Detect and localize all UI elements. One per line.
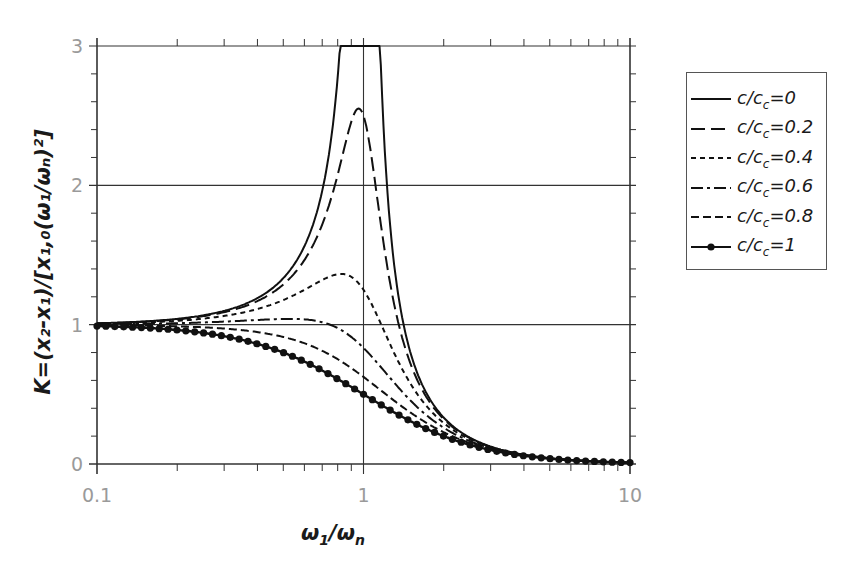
marker-dot [333,375,340,382]
tick-labels: 01230.1110 [71,35,642,506]
marker-dot [236,336,243,343]
legend-swatch [691,204,731,230]
marker-dot [404,416,411,423]
marker-dot [360,391,367,398]
marker-dot [156,325,163,332]
marker-dot [200,329,207,336]
marker-dot [307,361,314,368]
marker-dot [440,432,447,439]
legend-label: c/cc=0.6 [737,175,813,200]
marker-dot [573,457,580,464]
marker-dot [324,370,331,377]
marker-dot [475,444,482,451]
legend-swatch [691,116,731,142]
marker-dot [555,456,562,463]
marker-dot [289,353,296,360]
marker-dot [618,459,625,466]
legend-swatch [691,86,731,112]
marker-dot [182,327,189,334]
marker-dot [538,454,545,461]
legend-label: c/cc=0.2 [737,116,813,141]
marker-dot [138,324,145,331]
marker-dot [493,448,500,455]
y-tick-label: 2 [71,174,83,196]
marker-dot [173,326,180,333]
marker-dot [626,459,633,466]
legend-swatch [691,234,731,260]
legend-item: c/cc=0.2 [687,116,828,142]
marker-dot [369,396,376,403]
marker-dot [129,324,136,331]
marker-dot [600,458,607,465]
legend-label: c/cc=0 [737,87,796,112]
marker-dot [413,421,420,428]
marker-dot [93,322,100,329]
x-axis-title: ω1/ωn [301,521,365,548]
marker-dot [502,449,509,456]
marker-dot [431,429,438,436]
marker-dot [511,451,518,458]
x-tick-label: 0.1 [82,484,112,506]
marker-dot [218,332,225,339]
legend-item: c/cc=1 [687,234,828,260]
marker-dot [191,328,198,335]
marker-dot [484,446,491,453]
legend-label: c/cc=0.8 [737,205,813,230]
marker-dot [582,457,589,464]
marker-dot [378,401,385,408]
marker-dot [564,456,571,463]
x-tick-label: 1 [357,484,369,506]
legend-item: c/cc=0 [687,86,828,112]
marker-dot [271,346,278,353]
marker-dot [520,452,527,459]
marker-dot [164,326,171,333]
legend: c/cc=0c/cc=0.2c/cc=0.4c/cc=0.6c/cc=0.8c/… [686,72,827,270]
legend-label: c/cc=0.4 [737,146,813,171]
marker-dot [609,459,616,466]
legend-item: c/cc=0.8 [687,204,828,230]
marker-dot [280,349,287,356]
marker-dot [147,324,154,331]
legend-swatch [691,175,731,201]
y-tick-label: 1 [71,314,83,336]
legend-item: c/cc=0.4 [687,145,828,171]
marker-dot [209,331,216,338]
marker-dot [244,338,251,345]
marker-dot [351,385,358,392]
legend-item: c/cc=0.6 [687,175,828,201]
gridlines [89,38,636,474]
y-axis-title: K=(x₂-x₁)/[x₁,₀(ω₁/ωₙ)²] [31,129,55,395]
marker-dot [422,425,429,432]
marker-dot [546,455,553,462]
marker-dot [120,323,127,330]
marker-dot [529,453,536,460]
marker-dot [395,411,402,418]
marker-dot [298,357,305,364]
marker-dot [227,334,234,341]
marker-dot [387,406,394,413]
marker-dot [262,343,269,350]
legend-label: c/cc=1 [737,234,796,259]
marker-dot [591,458,598,465]
marker-dot [315,365,322,372]
marker-dot [102,323,109,330]
marker-dot [111,323,118,330]
x-tick-label: 10 [618,484,642,506]
marker-dot [467,441,474,448]
legend-swatch [691,145,731,171]
y-tick-label: 0 [71,453,83,475]
marker-dot [449,436,456,443]
marker-dot [253,340,260,347]
marker-dot [458,439,465,446]
y-tick-label: 3 [71,35,83,57]
marker-dot [342,380,349,387]
